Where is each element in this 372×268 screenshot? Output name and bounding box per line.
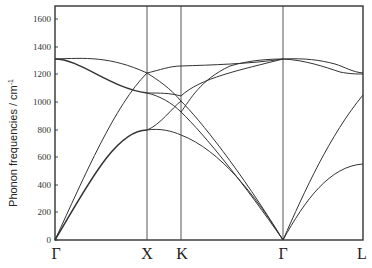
branch-ta-gx <box>55 130 147 240</box>
ytick-label: 1600 <box>33 14 52 24</box>
ytick-label: 400 <box>38 180 52 190</box>
xtick-label-gamma-2: Γ <box>278 245 287 262</box>
xtick-label-x: X <box>141 245 153 262</box>
branch-xk-6 <box>147 129 181 135</box>
y-axis-label-superscript: -1 <box>7 79 14 85</box>
xtick-label-l: L <box>357 245 367 262</box>
ytick-label: 1200 <box>33 69 52 79</box>
plot-frame <box>55 6 363 240</box>
x-tick-labels: Γ X K Γ L <box>51 245 367 262</box>
ytick-label: 1400 <box>33 42 52 52</box>
branch-kg-5 <box>181 112 283 240</box>
branch-la-gx <box>55 73 147 240</box>
branch-gl-1 <box>283 59 363 73</box>
branch-xk-5 <box>147 101 181 130</box>
y-tick-labels: 0 200 400 600 800 1000 1200 1400 1600 <box>33 14 52 245</box>
y-axis-label-text: Phonon frequencies / cm <box>7 85 19 207</box>
xtick-label-k: K <box>176 245 188 262</box>
y-axis-label-wrap: Phonon frequencies / cm-1 <box>6 58 20 228</box>
ytick-label: 0 <box>47 235 52 245</box>
branch-xk-2 <box>147 73 181 101</box>
ytick-label: 600 <box>38 152 52 162</box>
branch-gl-la <box>283 95 363 240</box>
branch-xk-1 <box>147 66 181 73</box>
xtick-label-gamma: Γ <box>51 245 60 262</box>
ytick-label: 1000 <box>33 97 52 107</box>
phonon-dispersion-chart: 0 200 400 600 800 1000 1200 1400 1600 Γ … <box>0 0 372 268</box>
branch-kg-2 <box>181 59 283 96</box>
dispersion-curves <box>55 58 363 240</box>
y-axis-label: Phonon frequencies / cm-1 <box>7 79 20 207</box>
branch-gl-ta <box>283 164 363 240</box>
branch-optical-lower-gx <box>55 59 147 93</box>
branch-optical-upper-gx <box>55 58 147 73</box>
ytick-label: 200 <box>38 207 52 217</box>
branch-kg-6 <box>181 135 283 240</box>
ytick-label: 800 <box>38 125 52 135</box>
